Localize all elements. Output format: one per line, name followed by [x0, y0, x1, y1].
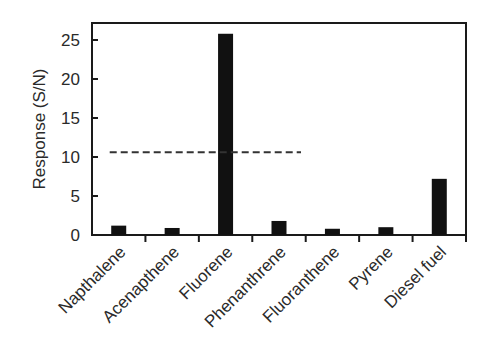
plot-border	[92, 23, 466, 235]
bar	[165, 228, 180, 235]
x-category-label: Pyrene	[345, 242, 397, 294]
y-tick-label: 25	[61, 31, 80, 50]
x-axis-labels: NapthaleneAcenaptheneFluorenePhenanthren…	[55, 242, 451, 331]
x-axis-ticks	[145, 235, 466, 242]
y-tick-label: 15	[61, 109, 80, 128]
y-tick-label: 20	[61, 70, 80, 89]
y-tick-label: 0	[71, 226, 80, 245]
bar	[378, 227, 393, 235]
bar	[111, 226, 126, 235]
bar	[272, 221, 287, 235]
bar	[218, 34, 233, 235]
bar	[432, 179, 447, 235]
bar-chart: 0510152025 NapthaleneAcenaptheneFluorene…	[0, 0, 487, 360]
y-axis-title: Response (S/N)	[30, 69, 49, 190]
y-tick-label: 5	[71, 187, 80, 206]
bars	[111, 34, 447, 235]
bar	[325, 229, 340, 235]
y-tick-label: 10	[61, 148, 80, 167]
plot-frame	[92, 23, 466, 235]
